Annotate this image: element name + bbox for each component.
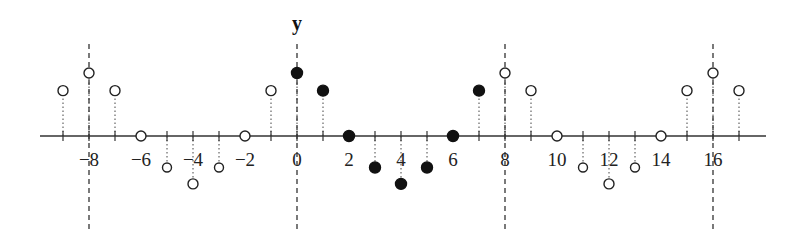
tick-label: −8 bbox=[79, 149, 99, 170]
tick-label: 12 bbox=[600, 149, 619, 170]
sample-markers bbox=[58, 68, 744, 190]
hollow-sample-marker bbox=[240, 131, 250, 141]
periodic-sequence-diagram: −8−6−4−20246810121416 y bbox=[0, 0, 807, 243]
hollow-sample-marker bbox=[708, 68, 718, 78]
filled-sample-marker bbox=[292, 68, 303, 79]
tick-label: 0 bbox=[292, 149, 302, 170]
y-axis-label: y bbox=[292, 12, 302, 35]
hollow-sample-marker bbox=[84, 68, 94, 78]
tick-label: −6 bbox=[131, 149, 151, 170]
tick-label: 6 bbox=[448, 149, 458, 170]
hollow-sample-marker bbox=[656, 131, 666, 141]
hollow-sample-marker bbox=[136, 131, 146, 141]
tick-label: 16 bbox=[704, 149, 723, 170]
filled-sample-marker bbox=[474, 85, 485, 96]
hollow-sample-marker bbox=[631, 163, 640, 172]
filled-sample-marker bbox=[448, 131, 459, 142]
hollow-sample-marker bbox=[604, 179, 614, 189]
tick-label: −2 bbox=[235, 149, 255, 170]
tick-label: 2 bbox=[344, 149, 354, 170]
hollow-sample-marker bbox=[552, 131, 562, 141]
hollow-sample-marker bbox=[682, 86, 692, 96]
tick-label: 4 bbox=[396, 149, 406, 170]
hollow-sample-marker bbox=[500, 68, 510, 78]
hollow-sample-marker bbox=[188, 179, 198, 189]
filled-sample-marker bbox=[318, 85, 329, 96]
tick-label: 10 bbox=[548, 149, 567, 170]
filled-sample-marker bbox=[344, 131, 355, 142]
x-tick-labels: −8−6−4−20246810121416 bbox=[79, 149, 723, 170]
hollow-sample-marker bbox=[734, 86, 744, 96]
hollow-sample-marker bbox=[163, 163, 172, 172]
hollow-sample-marker bbox=[215, 163, 224, 172]
hollow-sample-marker bbox=[526, 86, 536, 96]
hollow-sample-marker bbox=[58, 86, 68, 96]
tick-label: 14 bbox=[652, 149, 672, 170]
tick-label: 8 bbox=[500, 149, 510, 170]
tick-label: −4 bbox=[183, 149, 204, 170]
filled-sample-marker bbox=[370, 162, 381, 173]
filled-sample-marker bbox=[422, 162, 433, 173]
hollow-sample-marker bbox=[266, 86, 276, 96]
hollow-sample-marker bbox=[110, 86, 120, 96]
filled-sample-marker bbox=[396, 178, 407, 189]
hollow-sample-marker bbox=[579, 163, 588, 172]
